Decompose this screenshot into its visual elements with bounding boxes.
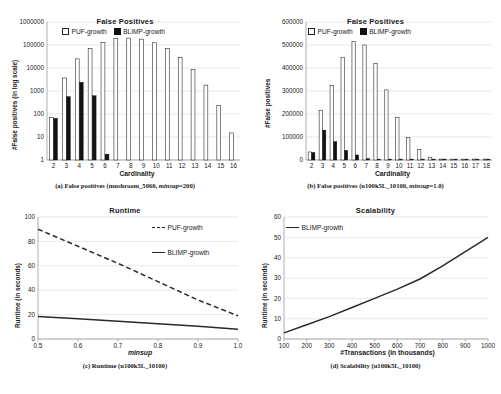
- caption-prefix: (b) False positives (u100k5L_10100,: [307, 182, 409, 189]
- svg-text:0.6: 0.6: [74, 342, 83, 349]
- panel-c-x-axis-label: minsup: [36, 349, 244, 356]
- svg-text:10000: 10000: [26, 64, 44, 71]
- panel-c-legend-puf: PUF-growth: [152, 224, 203, 231]
- open-square-icon: [62, 28, 69, 35]
- svg-text:8: 8: [129, 162, 133, 169]
- svg-text:800: 800: [437, 342, 448, 349]
- svg-text:50: 50: [274, 234, 282, 241]
- filled-square-icon: [360, 28, 367, 35]
- svg-text:1000: 1000: [481, 342, 496, 349]
- svg-text:1: 1: [40, 156, 44, 163]
- svg-text:15: 15: [450, 162, 458, 169]
- svg-text:8: 8: [375, 162, 379, 169]
- panel-d-x-axis-label: #Transactions (in thousands): [280, 349, 495, 356]
- panel-c-runtime: Runtime PUF-growth BLIMP-growth Runtime …: [0, 197, 250, 394]
- svg-text:14: 14: [439, 162, 447, 169]
- legend-item-puf-growth: PUF-growth: [308, 28, 353, 35]
- svg-text:2: 2: [310, 162, 314, 169]
- svg-text:6: 6: [353, 162, 357, 169]
- svg-text:16: 16: [230, 162, 238, 169]
- panel-d-y-axis-label: Runtime (in seconds): [261, 263, 268, 328]
- svg-text:13: 13: [191, 162, 199, 169]
- svg-text:4: 4: [77, 162, 81, 169]
- legend-label: BLIMP-growth: [123, 28, 165, 35]
- svg-text:20: 20: [28, 311, 36, 318]
- svg-text:6: 6: [103, 162, 107, 169]
- svg-text:0.9: 0.9: [194, 342, 203, 349]
- svg-text:500: 500: [369, 342, 380, 349]
- svg-text:700: 700: [415, 342, 426, 349]
- panel-a-x-axis-label: Cardinality: [30, 170, 244, 177]
- svg-text:40: 40: [28, 286, 36, 293]
- svg-text:4: 4: [332, 162, 336, 169]
- panel-d-legend: BLIMP-growth: [286, 224, 343, 231]
- legend-label: PUF-growth: [168, 224, 203, 231]
- svg-text:100000: 100000: [23, 41, 45, 48]
- svg-text:11: 11: [166, 162, 173, 169]
- svg-text:12: 12: [179, 162, 187, 169]
- svg-text:500000: 500000: [282, 41, 304, 48]
- svg-text:17: 17: [472, 162, 480, 169]
- svg-text:0.7: 0.7: [114, 342, 123, 349]
- legend-item-puf-growth: PUF-growth: [62, 28, 107, 35]
- svg-text:10: 10: [37, 133, 45, 140]
- panel-c-legend-blimp: BLIMP-growth: [152, 249, 209, 256]
- svg-text:1000: 1000: [30, 87, 45, 94]
- svg-text:1.0: 1.0: [234, 342, 243, 349]
- svg-text:9: 9: [142, 162, 146, 169]
- caption-suffix: =1.0): [430, 182, 444, 189]
- panel-b-title: False Positives: [250, 17, 501, 26]
- legend-label: BLIMP-growth: [369, 28, 411, 35]
- svg-text:0.5: 0.5: [34, 342, 43, 349]
- svg-text:7: 7: [116, 162, 120, 169]
- panel-b-x-axis-label: Cardinality: [290, 170, 495, 177]
- panel-c-y-axis-label: Runtime (in seconds): [14, 263, 21, 328]
- panel-d-scalability: Scalability BLIMP-growth Runtime (in sec…: [250, 197, 501, 394]
- panel-b-y-axis-label: #False positives: [264, 79, 271, 128]
- svg-text:2: 2: [52, 162, 56, 169]
- legend-item-blimp-growth: BLIMP-growth: [152, 249, 209, 256]
- svg-text:13: 13: [428, 162, 436, 169]
- caption-prefix: (c) Runtime (u100k5L_10100): [83, 362, 167, 369]
- legend-label: PUF-growth: [72, 28, 107, 35]
- svg-text:60: 60: [28, 262, 36, 269]
- panel-c-caption: (c) Runtime (u100k5L_10100): [0, 362, 250, 369]
- svg-text:300000: 300000: [282, 87, 304, 94]
- svg-text:200: 200: [301, 342, 312, 349]
- panel-a-caption: (a) False positives (mushroom_5060, mins…: [0, 182, 250, 189]
- svg-text:400000: 400000: [282, 64, 304, 71]
- solid-line-icon: [152, 252, 165, 253]
- panel-b-caption: (b) False positives (u100k5L_10100, mins…: [250, 182, 501, 189]
- panel-a-title: False Positives: [0, 17, 250, 26]
- caption-prefix: (d) Scalability (u100k5L_10100): [330, 362, 420, 369]
- svg-text:600: 600: [392, 342, 403, 349]
- svg-text:10: 10: [153, 162, 161, 169]
- svg-text:10: 10: [274, 315, 282, 322]
- svg-text:400: 400: [347, 342, 358, 349]
- svg-text:100: 100: [279, 342, 290, 349]
- svg-text:300: 300: [324, 342, 335, 349]
- caption-prefix: (a) False positives (mushroom_5060,: [55, 182, 159, 189]
- svg-text:11: 11: [407, 162, 414, 169]
- legend-label: BLIMP-growth: [302, 224, 344, 231]
- svg-text:7: 7: [364, 162, 368, 169]
- legend-label: BLIMP-growth: [168, 249, 210, 256]
- svg-text:900: 900: [460, 342, 471, 349]
- svg-text:10: 10: [395, 162, 403, 169]
- svg-text:18: 18: [483, 162, 491, 169]
- legend-item-puf-growth: PUF-growth: [152, 224, 203, 231]
- solid-line-icon: [286, 227, 299, 228]
- svg-text:80: 80: [28, 238, 36, 245]
- panel-d-caption: (d) Scalability (u100k5L_10100): [250, 362, 501, 369]
- svg-text:100000: 100000: [282, 133, 304, 140]
- svg-text:0.8: 0.8: [154, 342, 163, 349]
- panel-c-title: Runtime: [0, 206, 250, 215]
- svg-text:14: 14: [204, 162, 212, 169]
- svg-text:5: 5: [90, 162, 94, 169]
- legend-label: PUF-growth: [318, 28, 353, 35]
- dashed-line-icon: [152, 227, 165, 228]
- panel-b-legend: PUF-growth BLIMP-growth: [308, 28, 411, 35]
- svg-text:12: 12: [417, 162, 425, 169]
- caption-italic: minsup: [159, 182, 179, 189]
- legend-item-blimp-growth: BLIMP-growth: [360, 28, 411, 35]
